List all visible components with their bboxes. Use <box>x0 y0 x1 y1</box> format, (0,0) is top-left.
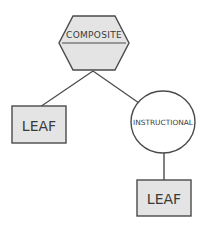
leaf-2-label: LEAF <box>147 191 181 207</box>
node-leaf-2: LEAF <box>137 180 191 216</box>
instructional-label: INSTRUCTIONAL <box>133 118 193 127</box>
leaf-1-label: LEAF <box>22 118 56 134</box>
node-instructional: INSTRUCTIONAL <box>131 91 195 153</box>
tree-diagram: COMPOSITE LEAF INSTRUCTIONAL LEAF <box>0 0 207 226</box>
edge-composite-leaf1 <box>40 71 93 107</box>
node-composite: COMPOSITE <box>59 16 129 70</box>
composite-label: COMPOSITE <box>66 30 122 40</box>
edge-composite-instructional <box>93 71 139 103</box>
node-leaf-1: LEAF <box>12 106 66 143</box>
